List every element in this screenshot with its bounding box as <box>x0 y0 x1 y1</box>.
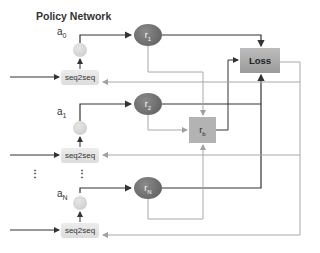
action-node-1 <box>73 121 87 135</box>
reward-node-1: r1 <box>134 24 162 46</box>
action-label-1: a1 <box>57 106 66 119</box>
seq2seq-module-0: seq2seq <box>61 70 99 85</box>
seq2seq-module-n: seq2seq <box>61 223 99 238</box>
action-label-0: a0 <box>57 26 66 39</box>
seq2seq-module-1: seq2seq <box>61 148 99 163</box>
action-node-0 <box>73 43 87 57</box>
ellipsis-center: ⋮ <box>77 172 87 176</box>
action-label-n: aN <box>57 188 68 201</box>
baseline-reward-box: rb <box>189 117 216 143</box>
loss-box: Loss <box>240 48 280 73</box>
diagram-title: Policy Network <box>36 10 111 22</box>
reward-node-2: r2 <box>134 93 162 115</box>
action-node-n <box>73 196 87 210</box>
reward-node-n: rN <box>134 177 162 199</box>
ellipsis-left: ⋮ <box>30 172 40 176</box>
